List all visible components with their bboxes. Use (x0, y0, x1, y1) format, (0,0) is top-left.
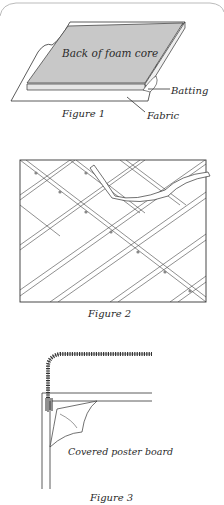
figure-2-illustration (20, 160, 210, 302)
batting-label: Batting (170, 85, 208, 96)
ribbon (90, 165, 210, 202)
foam-label: Back of foam core (61, 47, 158, 59)
figure-2-caption: Figure 2 (87, 308, 131, 319)
figure-1-caption: Figure 1 (61, 108, 105, 119)
poster-board-label: Covered poster board (68, 446, 173, 457)
figures-canvas: Back of foam core Batting Fabric Figure … (0, 0, 224, 505)
figure-1-illustration (11, 22, 185, 112)
figure-3-illustration (42, 354, 152, 489)
figure-3-caption: Figure 3 (89, 492, 133, 503)
fabric-label: Fabric (146, 110, 180, 121)
frame-border (0, 3, 224, 16)
